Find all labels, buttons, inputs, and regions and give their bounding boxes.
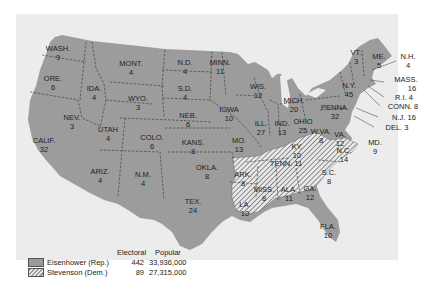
state-label-ga: GA.12 (304, 184, 317, 202)
state-label-la: LA.10 (239, 200, 250, 218)
state-label-me: ME.5 (372, 52, 385, 70)
state-label-fla: FLA.10 (320, 222, 336, 240)
callout-nh: N.H.4 (401, 52, 416, 70)
state-label-penna: PENNA.32 (321, 103, 349, 121)
callout-conn: CONN. 8 (388, 102, 418, 111)
state-label-sd: S.D.4 (178, 84, 193, 102)
state-label-wyo: WYO.3 (128, 94, 148, 112)
state-label-nm: N.M.4 (135, 170, 151, 188)
callout-del: DEL. 3 (386, 123, 409, 132)
state-label-ill: ILL.27 (255, 119, 268, 137)
state-label-nd: N.D.4 (178, 58, 193, 76)
state-label-ohio: OHIO25 (293, 117, 312, 135)
state-label-nc: N.C.14 (337, 146, 352, 164)
state-label-sc: S.C.8 (322, 168, 337, 186)
state-label-wash: WASH.9 (46, 44, 70, 62)
state-label-mo: MO.13 (232, 136, 246, 154)
state-label-mont: MONT.4 (119, 59, 142, 77)
state-label-mich: MICH.20 (283, 96, 304, 114)
state-label-ark: ARK.8 (234, 170, 252, 188)
state-label-ore: ORE.6 (44, 74, 62, 92)
state-label-miss: MISS.8 (254, 185, 274, 203)
state-label-ny: N.Y.45 (342, 81, 356, 99)
state-label-calif: CALIF.32 (33, 136, 56, 154)
state-label-wva: W.VA.8 (311, 127, 331, 145)
state-label-ariz: ARIZ.4 (90, 167, 109, 185)
state-label-vt: VT.3 (351, 48, 362, 66)
callout-ri: R.I. 4 (395, 93, 413, 102)
state-label-ky: KY.10 (291, 142, 302, 160)
republican-swatch-icon (28, 258, 44, 267)
state-label-ind: IND.13 (275, 119, 290, 137)
democrat-hatch-swatch-icon (28, 268, 44, 277)
callout-md: MD.9 (368, 138, 382, 156)
legend-header-popular: Popular (155, 248, 181, 257)
state-label-ida: IDA.4 (87, 84, 102, 102)
state-label-tenn: TENN. 11 (270, 159, 302, 168)
state-label-utah: UTAH4 (98, 125, 118, 143)
state-label-minn: MINN.11 (209, 58, 230, 76)
state-label-nev: NEV.3 (64, 113, 81, 131)
callout-nj: N.J. 16 (392, 113, 416, 122)
state-label-wis: WIS.12 (250, 82, 266, 100)
state-label-kans: KANS.8 (182, 138, 205, 156)
state-label-colo: COLO.6 (140, 133, 163, 151)
state-label-iowa: IOWA10 (219, 105, 239, 123)
state-label-tex: TEX.24 (185, 197, 202, 215)
state-label-okla: OKLA.8 (196, 163, 218, 181)
state-label-ala: ALA.11 (281, 185, 297, 203)
state-label-neb: NEB.6 (179, 111, 197, 129)
legend-header-electoral: Electoral (117, 248, 146, 257)
callout-mass: MASS.16 (394, 75, 417, 93)
